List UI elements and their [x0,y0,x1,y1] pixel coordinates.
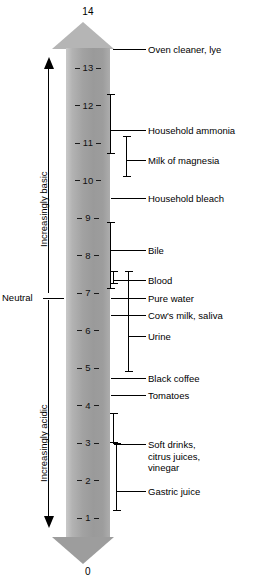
label-bile: Bile [148,245,164,257]
ph-endpoint-bottom: 0 [66,566,110,577]
neutral-leader-line [43,298,64,299]
leader-household-ammonia [111,130,146,131]
leader-oven-cleaner-lye [113,49,146,50]
leader-black-coffee [111,378,146,379]
leader-blood [114,280,146,281]
label-cows-milk-saliva: Cow's milk, saliva [148,310,223,322]
tick-label: 1 [82,513,93,523]
tick-dash-right [94,218,99,219]
bracket-blood [113,271,114,284]
label-household-bleach: Household bleach [148,193,224,205]
bracket-milk-of-magnesia [126,136,127,177]
increasingly-acidic-caption: Increasingly acidic [38,404,49,482]
tick-dash-right [94,293,99,294]
tick-dash-right [94,255,99,256]
tick-label: 8 [82,251,93,261]
bracket-bile [110,222,111,290]
tick-label: 6 [82,326,93,336]
ph-tick-6: 6 [66,325,110,337]
ph-tick-5: 5 [66,362,110,374]
label-tomatoes: Tomatoes [148,390,189,402]
ph-tick-1: 1 [66,512,110,524]
tick-dash-right [94,443,99,444]
label-urine: Urine [148,331,171,343]
tick-dash-right [94,330,99,331]
ph-tick-10: 10 [66,175,110,187]
tick-dash-right [96,68,101,69]
ph-tick-13: 13 [66,62,110,74]
tick-label: 9 [82,213,93,223]
label-gastric-juice: Gastric juice [148,486,200,498]
label-milk-of-magnesia: Milk of magnesia [148,155,219,167]
tick-dash-right [96,143,101,144]
increasingly-acidic-arrow-icon [44,516,54,528]
tick-label: 11 [80,138,96,148]
tick-label: 4 [82,401,93,411]
leader-gastric-juice [117,491,146,492]
ph-tick-7: 7 [66,287,110,299]
label-oven-cleaner-lye: Oven cleaner, lye [148,44,221,56]
ph-tick-2: 2 [66,475,110,487]
tick-label: 5 [82,363,93,373]
tick-dash-right [94,405,99,406]
tick-label: 2 [82,476,93,486]
ph-tick-11: 11 [66,137,110,149]
ph-tick-12: 12 [66,100,110,112]
neutral-label: Neutral [2,292,33,303]
tick-dash-right [94,518,99,519]
ph-tick-4: 4 [66,400,110,412]
tick-label: 3 [82,438,93,448]
increasingly-basic-caption: Increasingly basic [38,171,49,247]
leader-household-bleach [111,198,146,199]
bracket-gastric-juice [116,443,117,511]
leader-soft-drinks-citrus-vinegar [114,444,146,445]
bracket-urine [128,271,129,372]
tick-label: 7 [82,288,93,298]
ph-endpoint-top: 14 [66,6,110,17]
bracket-household-ammonia [110,94,111,154]
bracket-soft-drinks-citrus-vinegar [113,413,114,443]
label-household-ammonia: Household ammonia [148,125,235,137]
ph-tick-8: 8 [66,250,110,262]
tick-dash-right [96,105,101,106]
tick-dash-right [94,480,99,481]
leader-urine [129,336,146,337]
ph-scale-diagram: 14 0 13 12 11 10 9 8 7 6 [0,0,262,585]
tick-label: 10 [80,176,97,186]
tick-dash-right [94,368,99,369]
leader-bile [111,250,146,251]
scale-arrow-head-bottom [52,537,114,564]
label-black-coffee: Black coffee [148,373,200,385]
tick-dash-right [96,180,101,181]
label-soft-drinks-citrus-vinegar: Soft drinks, citrus juices, vinegar [148,439,200,474]
ph-tick-9: 9 [66,212,110,224]
scale-arrow-head-top [52,22,114,49]
leader-milk-of-magnesia [127,160,146,161]
ph-tick-3: 3 [66,437,110,449]
tick-label: 12 [80,101,97,111]
label-pure-water: Pure water [148,293,194,305]
tick-label: 13 [80,63,97,73]
label-blood: Blood [148,275,172,287]
leader-tomatoes [111,395,146,396]
